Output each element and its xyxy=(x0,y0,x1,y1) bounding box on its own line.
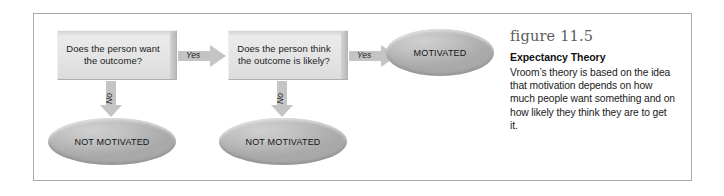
edge-label-no-2: No xyxy=(275,93,285,104)
outcome-node-motivated-label: MOTIVATED xyxy=(386,48,494,58)
edge-label-yes-1: Yes xyxy=(186,50,200,60)
outcome-node-not-motivated-2: NOT MOTIVATED xyxy=(219,118,347,165)
outcome-node-not-motivated-2-label: NOT MOTIVATED xyxy=(219,137,347,147)
outcome-node-not-motivated-1-label: NOT MOTIVATED xyxy=(48,137,176,147)
decision-node-1-label: Does the person want the outcome? xyxy=(58,43,168,67)
figure-container: Does the person want the outcome? Yes Do… xyxy=(0,0,724,196)
figure-title: Expectancy Theory xyxy=(510,51,675,63)
edge-label-yes-2: Yes xyxy=(357,50,371,60)
decision-node-2-label: Does the person think the outcome is lik… xyxy=(229,43,339,67)
edge-label-no-1: No xyxy=(104,93,114,104)
outcome-node-motivated: MOTIVATED xyxy=(386,29,494,76)
figure-description: Vroom’s theory is based on the idea that… xyxy=(510,66,675,132)
figure-number: figure 11.5 xyxy=(510,28,675,44)
decision-node-2: Does the person think the outcome is lik… xyxy=(228,30,348,80)
decision-node-1: Does the person want the outcome? xyxy=(57,30,177,80)
outcome-node-not-motivated-1: NOT MOTIVATED xyxy=(48,118,176,165)
figure-caption: figure 11.5 Expectancy Theory Vroom’s th… xyxy=(510,28,675,132)
